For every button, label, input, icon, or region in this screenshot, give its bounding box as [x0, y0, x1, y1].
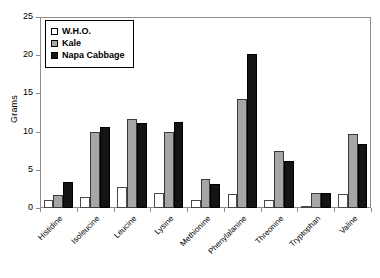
bar-tryptophan-kale — [311, 193, 321, 208]
bar-valine-kale — [348, 134, 358, 208]
bar-leucine-kale — [127, 119, 137, 208]
x-axis-tick — [261, 208, 262, 212]
y-axis-tick: 20 — [0, 55, 40, 56]
amino-acid-bar-chart: Grams 0510152025 HistidineIsoleucineLeuc… — [0, 0, 380, 278]
y-tick-label: 25 — [23, 11, 33, 21]
y-tick-label: 20 — [23, 49, 33, 59]
bar-phenylalanine-kale — [237, 99, 247, 208]
legend-swatch-napa-cabbage-icon — [51, 52, 58, 59]
bar-methionine-kale — [201, 179, 211, 208]
bar-threonine-kale — [274, 151, 284, 208]
y-tick-label: 15 — [23, 87, 33, 97]
bar-tryptophan-w-h-o — [301, 206, 311, 208]
bar-lysine-w-h-o — [154, 193, 164, 208]
bar-methionine-napa-cabbage — [210, 184, 220, 208]
y-axis-tick: 15 — [0, 93, 40, 94]
bar-methionine-w-h-o — [191, 200, 201, 208]
bar-valine-w-h-o — [338, 194, 348, 208]
y-axis-title: Grams — [9, 79, 19, 139]
x-axis-tick — [40, 208, 41, 212]
bar-tryptophan-napa-cabbage — [321, 193, 331, 208]
x-axis-tick — [297, 208, 298, 212]
bar-histidine-w-h-o — [44, 200, 54, 208]
x-axis-tick — [77, 208, 78, 212]
legend-item-who: W.H.O. — [51, 27, 125, 36]
x-axis-tick — [150, 208, 151, 212]
legend-swatch-kale-icon — [51, 40, 58, 47]
y-axis-tick: 5 — [0, 170, 40, 171]
y-tick-label: 5 — [28, 164, 33, 174]
bar-isoleucine-napa-cabbage — [100, 127, 110, 208]
bar-lysine-kale — [164, 132, 174, 208]
bar-valine-napa-cabbage — [358, 144, 368, 208]
x-axis-tick — [114, 208, 115, 212]
bar-histidine-kale — [53, 195, 63, 208]
bar-phenylalanine-w-h-o — [228, 194, 238, 208]
y-tick-label: 10 — [23, 126, 33, 136]
legend-label-napa-cabbage: Napa Cabbage — [62, 51, 125, 60]
y-axis-tick: 25 — [0, 17, 40, 18]
bar-threonine-napa-cabbage — [284, 161, 294, 208]
bar-threonine-w-h-o — [264, 200, 274, 208]
y-axis-tick: 10 — [0, 132, 40, 133]
legend-label-who: W.H.O. — [62, 27, 91, 36]
bar-histidine-napa-cabbage — [63, 182, 73, 208]
x-axis-tick — [187, 208, 188, 212]
legend-swatch-who-icon — [51, 28, 58, 35]
bar-isoleucine-kale — [90, 132, 100, 208]
legend-label-kale: Kale — [62, 39, 81, 48]
legend-item-kale: Kale — [51, 39, 125, 48]
bar-leucine-napa-cabbage — [137, 123, 147, 208]
chart-legend: W.H.O. Kale Napa Cabbage — [45, 20, 134, 68]
y-tick-label: 0 — [28, 202, 33, 212]
x-axis-tick — [371, 208, 372, 212]
bar-lysine-napa-cabbage — [174, 122, 184, 208]
y-axis-tick: 0 — [0, 208, 40, 209]
bar-leucine-w-h-o — [117, 187, 127, 208]
bar-phenylalanine-napa-cabbage — [247, 54, 257, 208]
bar-isoleucine-w-h-o — [80, 197, 90, 208]
legend-item-napa-cabbage: Napa Cabbage — [51, 51, 125, 60]
x-axis-tick — [334, 208, 335, 212]
x-axis-tick — [224, 208, 225, 212]
